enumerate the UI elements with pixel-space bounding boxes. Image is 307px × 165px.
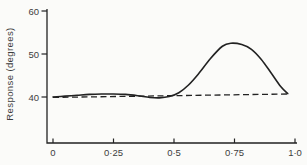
chart-plot: 60504000·250·50·751·0 [0,0,307,165]
chart-figure: Response (degrees) 60504000·250·50·751·0 [0,0,307,165]
solid-response-curve [53,43,288,98]
y-tick-label: 40 [28,92,39,103]
x-tick-label: 0·25 [104,147,123,158]
x-tick-label: 1·0 [288,147,302,158]
y-tick-label: 50 [28,49,39,60]
x-tick-label: 0·5 [167,147,181,158]
y-tick-label: 60 [28,6,39,17]
axes [47,9,297,143]
x-tick-label: 0·75 [225,147,244,158]
x-tick-label: 0 [50,147,55,158]
